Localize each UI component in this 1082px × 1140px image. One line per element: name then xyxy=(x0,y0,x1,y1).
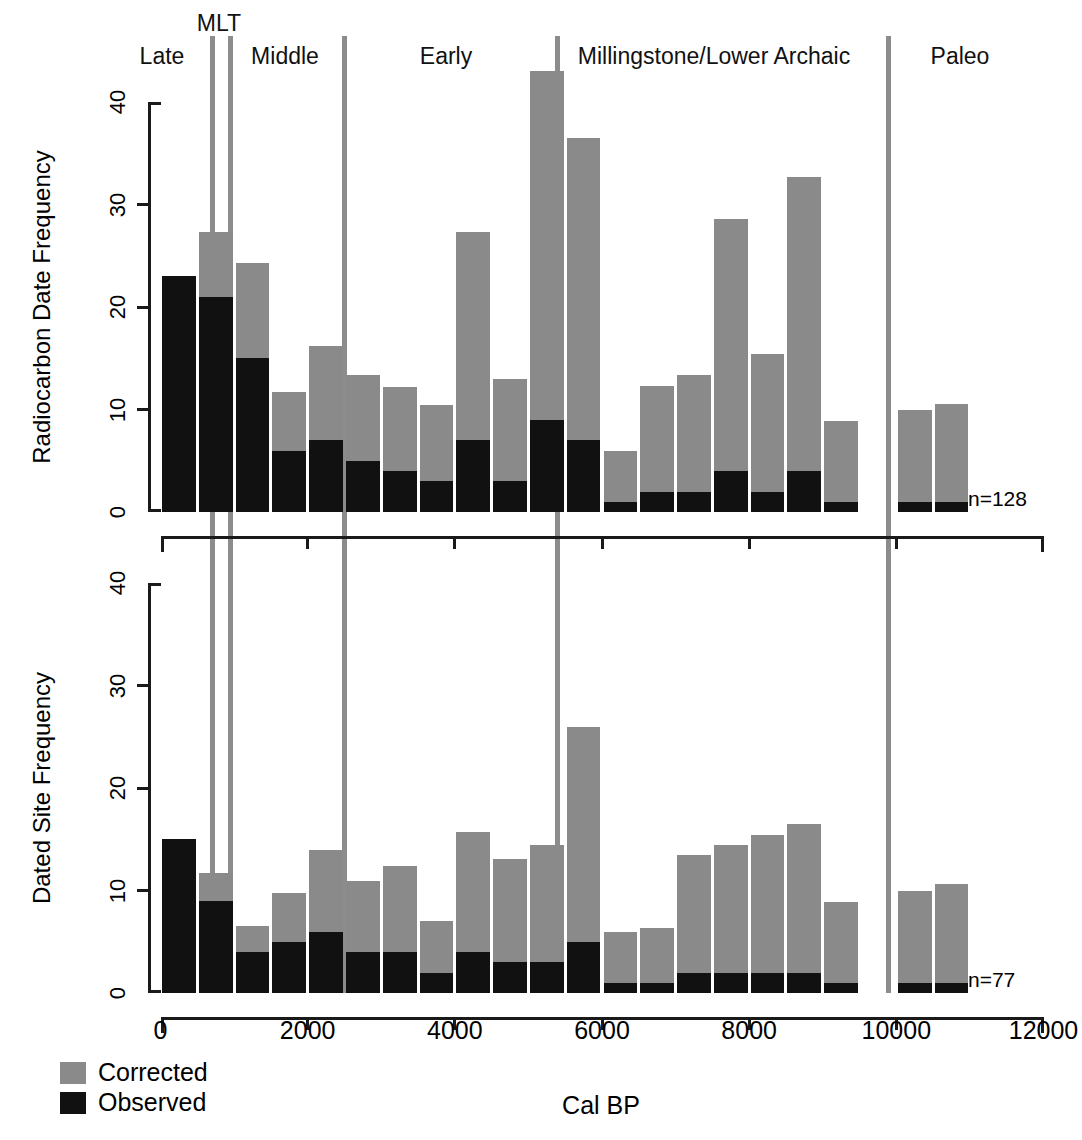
bar-segment-observed xyxy=(272,942,306,993)
bar-dated-site-frequency-10000 xyxy=(898,891,932,994)
bar-segment-observed xyxy=(824,983,858,993)
y-tick-label-40: 40 xyxy=(107,563,129,603)
bar-segment-observed xyxy=(898,983,932,993)
y-tick-label-10: 10 xyxy=(107,871,129,911)
y-tick-20 xyxy=(137,787,149,790)
bar-dated-site-frequency-500 xyxy=(199,873,233,993)
y-tick-label-20: 20 xyxy=(107,768,129,808)
bar-dated-site-frequency-6000 xyxy=(604,932,638,994)
bar-dated-site-frequency-8500 xyxy=(787,824,821,993)
bar-dated-site-frequency-4000 xyxy=(456,832,490,993)
bar-dated-site-frequency-7500 xyxy=(714,845,748,993)
y-tick-10 xyxy=(137,889,149,892)
bar-dated-site-frequency-3500 xyxy=(420,921,454,993)
bar-segment-observed xyxy=(236,952,270,993)
legend-swatch-corrected xyxy=(60,1062,86,1084)
x-axis-title: Cal BP xyxy=(451,1093,751,1118)
bar-segment-corrected xyxy=(898,891,932,994)
bar-segment-observed xyxy=(935,983,969,993)
x-tick-label-8000: 8000 xyxy=(689,1018,809,1043)
bar-segment-observed xyxy=(309,932,343,994)
bar-dated-site-frequency-6500 xyxy=(640,928,674,993)
legend-label-corrected: Corrected xyxy=(98,1060,208,1085)
bar-dated-site-frequency-1000 xyxy=(236,926,270,993)
bar-segment-observed xyxy=(677,973,711,994)
bar-dated-site-frequency-10500 xyxy=(935,884,969,993)
y-axis-cap-top xyxy=(148,583,161,586)
bar-segment-observed xyxy=(493,962,527,993)
bar-segment-observed xyxy=(420,973,454,994)
legend-swatch-observed xyxy=(60,1092,86,1114)
y-tick-30 xyxy=(137,684,149,687)
bar-dated-site-frequency-8000 xyxy=(751,835,785,993)
bar-segment-corrected xyxy=(935,884,969,993)
y-tick-label-0: 0 xyxy=(107,973,129,1013)
bar-segment-observed xyxy=(162,839,196,993)
x-tick-label-10000: 10000 xyxy=(836,1018,956,1043)
bar-segment-observed xyxy=(567,942,601,993)
bar-segment-corrected xyxy=(824,902,858,993)
bar-segment-corrected xyxy=(714,845,748,993)
legend: CorrectedObserved xyxy=(60,1060,420,1122)
bar-dated-site-frequency-5500 xyxy=(567,727,601,994)
x-tick-label-6000: 6000 xyxy=(542,1018,662,1043)
bar-dated-site-frequency-2500 xyxy=(346,881,380,993)
bar-dated-site-frequency-2000 xyxy=(309,850,343,994)
bar-segment-corrected xyxy=(787,824,821,993)
legend-item-corrected: Corrected xyxy=(60,1060,208,1085)
bar-dated-site-frequency-0 xyxy=(162,839,196,993)
y-axis-title-dated-site-frequency: Dated Site Frequency xyxy=(30,588,54,988)
bar-dated-site-frequency-9000 xyxy=(824,902,858,993)
bar-segment-observed xyxy=(530,962,564,993)
bar-segment-corrected xyxy=(751,835,785,993)
bar-segment-observed xyxy=(751,973,785,994)
bar-segment-observed xyxy=(604,983,638,993)
bar-segment-observed xyxy=(714,973,748,994)
sample-size-label-dated-site-frequency: n=77 xyxy=(968,969,1015,990)
x-tick-label-12000: 12000 xyxy=(984,1018,1082,1043)
panel-dated-site-frequency: 010203040Dated Site Frequencyn=77 xyxy=(0,0,1082,1140)
legend-label-observed: Observed xyxy=(98,1090,206,1115)
bar-dated-site-frequency-7000 xyxy=(677,855,711,993)
bar-segment-observed xyxy=(640,983,674,993)
bar-dated-site-frequency-4500 xyxy=(493,859,527,993)
bar-dated-site-frequency-5000 xyxy=(530,845,564,993)
legend-item-observed: Observed xyxy=(60,1090,206,1115)
bar-segment-observed xyxy=(346,952,380,993)
bar-segment-observed xyxy=(383,952,417,993)
bar-dated-site-frequency-3000 xyxy=(383,866,417,993)
y-axis-cap-bottom xyxy=(148,990,161,993)
x-tick-label-4000: 4000 xyxy=(395,1018,515,1043)
bar-segment-observed xyxy=(787,973,821,994)
y-tick-label-30: 30 xyxy=(107,666,129,706)
bar-segment-observed xyxy=(456,952,490,993)
bar-segment-observed xyxy=(199,901,233,993)
figure-canvas: LateMLTMiddleEarlyMillingstone/Lower Arc… xyxy=(0,0,1082,1140)
x-tick-label-0: 0 xyxy=(101,1018,221,1043)
bar-dated-site-frequency-1500 xyxy=(272,893,306,993)
x-tick-label-2000: 2000 xyxy=(248,1018,368,1043)
